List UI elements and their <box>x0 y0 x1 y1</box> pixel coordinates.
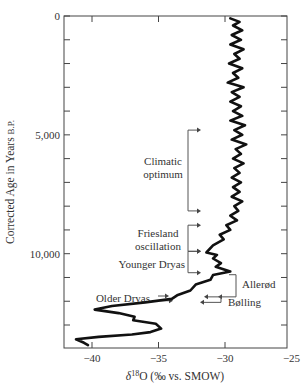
y-tick-label: 0 <box>55 10 61 22</box>
bracket <box>188 225 198 251</box>
annotations: ClimaticoptimumFrieslandoscillationYoung… <box>96 128 276 308</box>
bracket <box>188 130 198 211</box>
x-tick-label: −25 <box>283 352 301 364</box>
y-tick-label: 10,000 <box>30 248 61 260</box>
annotation-label: Allerød <box>242 278 276 290</box>
annotation-label: Climatic <box>144 155 182 167</box>
annotation-label: Bølling <box>228 296 262 308</box>
arrow-head-icon <box>197 223 201 228</box>
arrow-head-icon <box>165 294 169 299</box>
x-tick-label: −40 <box>83 352 101 364</box>
label-text: O (‰ vs. SMOW) <box>139 370 224 383</box>
chart: −40−35−30−25 05,00010,000 Climaticoptimu… <box>0 0 308 392</box>
annotation-label: optimum <box>143 168 183 180</box>
arrow-head-icon <box>197 249 201 254</box>
bracket <box>188 251 198 272</box>
arrow-head-icon <box>197 208 201 213</box>
annotation-label: Younger Dryas <box>119 258 185 270</box>
label-text: Corrected Age in Years <box>4 134 17 244</box>
annotation-label: oscillation <box>135 240 181 252</box>
bracket <box>222 275 236 297</box>
x-axis-label: δ18O (‰ vs. SMOW) <box>126 369 224 383</box>
arrow-head-icon <box>204 294 208 299</box>
y-tick-label: 5,000 <box>35 129 60 141</box>
arrow-head-icon <box>197 128 201 133</box>
y-axis-label: Corrected Age in Years B.P. <box>4 120 17 244</box>
x-tick-label: −30 <box>216 352 234 364</box>
arrow-head-icon <box>197 270 201 275</box>
arrow-head-icon <box>200 300 204 305</box>
label-suffix: B.P. <box>6 120 16 135</box>
x-tick-label: −35 <box>150 352 168 364</box>
superscript: 18 <box>131 369 139 378</box>
annotation-label: Friesland <box>138 227 179 239</box>
